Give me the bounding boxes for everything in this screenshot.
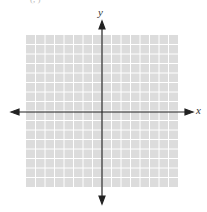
y-axis-down-arrow-icon <box>99 196 105 204</box>
x-axis-left-arrow-icon <box>11 109 19 115</box>
y-axis-up-arrow-icon <box>99 21 105 29</box>
coordinate-plane <box>0 0 207 212</box>
y-axis-label: y <box>98 6 103 18</box>
x-axis-label: x <box>196 104 201 116</box>
x-axis-right-arrow-icon <box>185 109 193 115</box>
